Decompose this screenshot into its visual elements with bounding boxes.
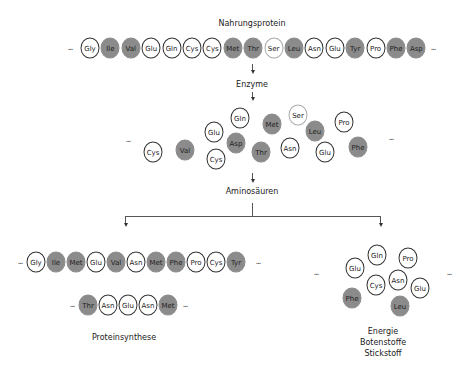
- amino-acid-cys: Cys: [207, 252, 226, 273]
- amino-acid-phe: Phe: [387, 38, 406, 59]
- amino-acid-met: Met: [223, 38, 242, 59]
- amino-acid-phe: Phe: [349, 137, 368, 158]
- amino-acid-asn: Asn: [389, 270, 408, 291]
- amino-acid-cys: Cys: [367, 275, 386, 296]
- protein-synthesis-label: Proteinsynthese: [92, 333, 156, 342]
- arrow-head-3: [251, 179, 255, 183]
- amino-acid-glu: Glu: [205, 122, 224, 143]
- amino-acid-gln: Gln: [368, 245, 387, 266]
- amino-acid-pro: Pro: [335, 112, 354, 133]
- amino-acid-met: Met: [263, 114, 282, 135]
- amino-acid-pro: Pro: [366, 38, 385, 59]
- amino-acid-glu: Glu: [142, 38, 161, 59]
- amino-acid-asn: Asn: [281, 138, 300, 159]
- amino-acid-leu: Leu: [285, 38, 304, 59]
- messengers-label: Botenstoffe: [360, 337, 406, 348]
- amino-acid-asp: Asp: [227, 133, 246, 154]
- amino-acid-val: Val: [176, 140, 195, 161]
- amino-acid-ser: Ser: [264, 38, 283, 59]
- amino-acid-val: Val: [121, 38, 140, 59]
- amino-acid-glu: Glu: [411, 278, 430, 299]
- amino-acid-thr: Thr: [79, 295, 98, 316]
- amino-acid-glu: Glu: [316, 142, 335, 163]
- ellipsis-left: ...: [18, 257, 23, 266]
- ellipsis-right: ...: [431, 43, 436, 52]
- arrow-head-1: [251, 70, 255, 74]
- amino-acids-label: Aminosäuren: [226, 187, 279, 196]
- amino-acid-thr: Thr: [244, 38, 263, 59]
- amino-acid-asn: Asn: [99, 295, 118, 316]
- ellipsis-right: ...: [447, 268, 452, 277]
- amino-acid-asn: Asn: [139, 295, 158, 316]
- amino-acid-glu: Glu: [119, 295, 138, 316]
- ellipsis-left: ...: [126, 135, 131, 144]
- amino-acid-cys: Cys: [203, 38, 222, 59]
- amino-acid-gln: Gln: [231, 108, 250, 129]
- source-label: Nahrungsprotein: [218, 19, 285, 28]
- amino-acid-ile: Ile: [101, 38, 120, 59]
- amino-acid-thr: Thr: [252, 142, 271, 163]
- energy-label: Energie: [368, 326, 398, 337]
- amino-acid-gln: Gln: [162, 38, 181, 59]
- amino-acid-leu: Leu: [306, 121, 325, 142]
- branch-horizontal: [125, 216, 381, 217]
- amino-acid-tyr: Tyr: [227, 252, 246, 273]
- ellipsis-left: ...: [314, 268, 319, 277]
- amino-acid-asp: Asp: [407, 38, 426, 59]
- amino-acid-glu: Glu: [325, 38, 344, 59]
- amino-acid-leu: Leu: [391, 296, 410, 317]
- amino-acid-pro: Pro: [187, 252, 206, 273]
- branch-stem: [252, 203, 253, 216]
- enzyme-label: Enzyme: [236, 80, 268, 89]
- ellipsis-right: ...: [183, 300, 188, 309]
- amino-acid-asn: Asn: [127, 252, 146, 273]
- arrow-head-2: [251, 97, 255, 101]
- branch-left-arrowhead: [124, 223, 128, 227]
- amino-acid-ile: Ile: [47, 252, 66, 273]
- amino-acid-cys: Cys: [183, 38, 202, 59]
- amino-acid-pro: Pro: [399, 248, 418, 269]
- amino-acid-gly: Gly: [81, 38, 100, 59]
- amino-acid-asn: Asn: [305, 38, 324, 59]
- amino-acid-tyr: Tyr: [346, 38, 365, 59]
- ellipsis-right: ...: [389, 133, 394, 142]
- ellipsis-left: ...: [70, 300, 75, 309]
- nitrogen-label: Stickstoff: [364, 348, 401, 359]
- amino-acid-met: Met: [67, 252, 86, 273]
- amino-acid-met: Met: [147, 252, 166, 273]
- amino-acid-phe: Phe: [343, 288, 362, 309]
- branch-right-arrowhead: [379, 223, 383, 227]
- amino-acid-phe: Phe: [167, 252, 186, 273]
- amino-acid-cys: Cys: [144, 142, 163, 163]
- ellipsis-right: ...: [256, 257, 261, 266]
- amino-acid-val: Val: [107, 252, 126, 273]
- amino-acid-glu: Glu: [87, 252, 106, 273]
- amino-acid-ser: Ser: [289, 105, 308, 126]
- ellipsis-left: ...: [68, 43, 73, 52]
- amino-acid-gly: Gly: [27, 252, 46, 273]
- amino-acid-cys: Cys: [207, 149, 226, 170]
- amino-acid-glu: Glu: [346, 258, 365, 279]
- amino-acid-met: Met: [159, 295, 178, 316]
